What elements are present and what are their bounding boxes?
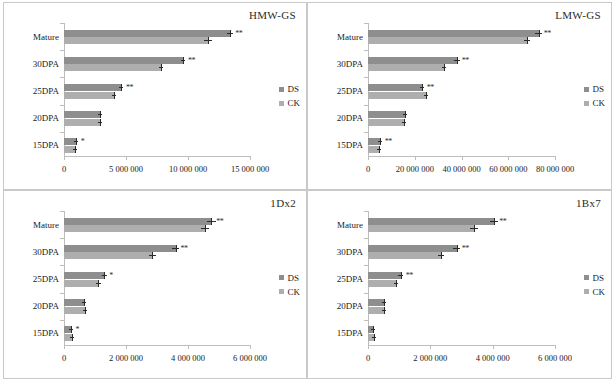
significance-marker-1bx7-25dpa: ** — [406, 272, 413, 279]
bar-1dx2-20dpa-ds — [64, 299, 84, 306]
y-tick-1bx7-3 — [364, 238, 368, 239]
bar-lmw-gs-30dpa-ds — [368, 57, 457, 64]
legend-item-lmw-gs-ds[interactable]: DS — [584, 84, 605, 94]
x-tick-lmw-gs-4 — [555, 156, 556, 160]
error-cap-1bx7-30dpa-ds — [453, 248, 460, 249]
plot-area-1bx7: 02 000 0004 000 0006 000 00015DPA20DPA25… — [368, 211, 555, 346]
error-cap-hmw-gs-mature-ds — [227, 33, 232, 34]
category-label-hmw-gs-20dpa: 20DPA — [33, 113, 59, 123]
category-label-1dx2-30dpa: 30DPA — [33, 247, 59, 257]
x-tick-label-lmw-gs-0: 0 — [366, 164, 370, 174]
y-tick-lmw-gs-4 — [364, 23, 368, 24]
legend-item-1bx7-ds[interactable]: DS — [584, 273, 605, 283]
category-label-hmw-gs-30dpa: 30DPA — [33, 59, 59, 69]
bar-1dx2-mature-ds — [64, 218, 211, 225]
legend-swatch-ds-icon — [279, 87, 284, 92]
bar-hmw-gs-20dpa-ck — [64, 119, 100, 126]
significance-marker-1dx2-30dpa: ** — [181, 245, 188, 252]
plot-area-lmw-gs: 020 000 00040 000 00060 000 00080 000 00… — [368, 23, 555, 157]
significance-marker-lmw-gs-30dpa: ** — [462, 57, 469, 64]
bar-hmw-gs-30dpa-ds — [64, 57, 183, 64]
x-tick-hmw-gs-1 — [126, 156, 127, 160]
category-label-1bx7-15dpa: 15DPA — [337, 328, 363, 338]
error-cap-1bx7-mature-ds — [490, 221, 498, 222]
x-tick-1bx7-2 — [493, 345, 494, 349]
x-tick-label-lmw-gs-2: 40 000 000 — [442, 164, 480, 174]
legend-swatch-ck-icon — [279, 289, 284, 294]
y-tick-hmw-gs-1 — [60, 105, 64, 106]
x-tick-1dx2-1 — [126, 345, 127, 349]
category-label-lmw-gs-25dpa: 25DPA — [337, 86, 363, 96]
x-tick-label-1bx7-0: 0 — [366, 353, 370, 363]
bar-1bx7-25dpa-ck — [368, 280, 396, 287]
significance-marker-hmw-gs-30dpa: ** — [188, 57, 195, 64]
legend-label-ds: DS — [592, 273, 604, 283]
x-tick-hmw-gs-3 — [250, 156, 251, 160]
error-cap-hmw-gs-20dpa-ds — [98, 114, 102, 115]
x-tick-label-lmw-gs-1: 20 000 000 — [396, 164, 434, 174]
legend-hmw-gs: DSCK — [279, 80, 300, 112]
plot-area-hmw-gs: 05 000 00010 000 00015 000 00015DPA*20DP… — [64, 23, 250, 157]
error-cap-1dx2-mature-ds — [207, 221, 216, 222]
y-tick-lmw-gs-2 — [364, 77, 368, 78]
y-tick-1dx2-0 — [60, 320, 64, 321]
error-cap-lmw-gs-15dpa-ds — [378, 141, 382, 142]
error-cap-hmw-gs-30dpa-ck — [159, 67, 163, 68]
bar-1dx2-mature-ck — [64, 225, 205, 232]
legend-item-1bx7-ck[interactable]: CK — [584, 287, 605, 297]
error-cap-1dx2-mature-ck — [201, 228, 209, 229]
significance-marker-lmw-gs-25dpa: ** — [427, 84, 434, 91]
x-tick-lmw-gs-0 — [368, 156, 369, 160]
panel-1dx2: 1Dx202 000 0004 000 0006 000 00015DPA*20… — [3, 190, 307, 379]
error-cap-hmw-gs-25dpa-ck — [112, 95, 116, 96]
category-label-1dx2-25dpa: 25DPA — [33, 274, 59, 284]
error-cap-1bx7-mature-ck — [470, 228, 477, 229]
x-tick-1bx7-1 — [430, 345, 431, 349]
error-cap-1dx2-20dpa-ck — [83, 310, 87, 311]
significance-marker-lmw-gs-mature: ** — [544, 30, 551, 37]
significance-marker-1dx2-15dpa: * — [76, 326, 80, 333]
legend-label-ck: CK — [287, 287, 300, 297]
legend-swatch-ds-icon — [584, 275, 589, 280]
x-tick-1dx2-3 — [250, 345, 251, 349]
plot-title-1bx7: 1Bx7 — [576, 197, 601, 209]
legend-label-ds: DS — [592, 84, 604, 94]
legend-item-hmw-gs-ck[interactable]: CK — [279, 98, 300, 108]
bar-1dx2-30dpa-ds — [64, 245, 176, 252]
error-cap-1dx2-20dpa-ds — [82, 302, 86, 303]
y-tick-1bx7-4 — [364, 211, 368, 212]
bar-1bx7-30dpa-ck — [368, 252, 441, 259]
legend-item-1dx2-ck[interactable]: CK — [279, 287, 300, 297]
error-cap-1dx2-30dpa-ck — [149, 255, 156, 256]
legend-item-hmw-gs-ds[interactable]: DS — [279, 84, 300, 94]
legend-lmw-gs: DSCK — [584, 80, 605, 112]
error-cap-lmw-gs-25dpa-ds — [420, 87, 424, 88]
significance-marker-hmw-gs-25dpa: ** — [126, 84, 133, 91]
legend-label-ck: CK — [592, 287, 605, 297]
y-tick-hmw-gs-0 — [60, 132, 64, 133]
legend-item-1dx2-ds[interactable]: DS — [279, 273, 300, 283]
y-tick-hmw-gs-4 — [60, 23, 64, 24]
x-tick-label-hmw-gs-1: 5 000 000 — [109, 164, 143, 174]
y-tick-1bx7-0 — [364, 320, 368, 321]
x-tick-label-lmw-gs-3: 60 000 000 — [489, 164, 527, 174]
bar-1bx7-30dpa-ds — [368, 245, 457, 252]
plot-title-lmw-gs: LMW-GS — [555, 9, 601, 21]
category-label-1bx7-20dpa: 20DPA — [337, 301, 363, 311]
x-axis-line-hmw-gs — [64, 156, 250, 157]
bar-hmw-gs-20dpa-ds — [64, 111, 100, 118]
error-cap-1bx7-25dpa-ds — [398, 275, 403, 276]
error-cap-1dx2-15dpa-ds — [69, 329, 73, 330]
legend-label-ck: CK — [287, 98, 300, 108]
x-axis-line-1dx2 — [64, 345, 250, 346]
legend-item-lmw-gs-ck[interactable]: CK — [584, 98, 605, 108]
error-cap-hmw-gs-15dpa-ck — [73, 149, 77, 150]
x-tick-label-1dx2-0: 0 — [62, 353, 66, 363]
x-tick-label-1dx2-3: 6 000 000 — [233, 353, 267, 363]
error-cap-lmw-gs-25dpa-ck — [424, 95, 428, 96]
x-tick-label-1dx2-2: 4 000 000 — [171, 353, 205, 363]
x-tick-hmw-gs-0 — [64, 156, 65, 160]
x-tick-label-lmw-gs-4: 80 000 000 — [536, 164, 574, 174]
bar-1bx7-mature-ck — [368, 225, 474, 232]
bar-lmw-gs-20dpa-ck — [368, 119, 404, 126]
